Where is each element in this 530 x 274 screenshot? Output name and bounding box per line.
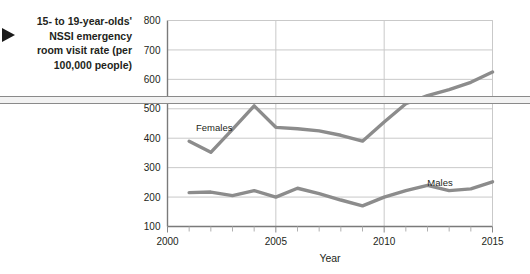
x-axis-title: Year	[319, 252, 341, 264]
series-label-females: Females	[196, 122, 233, 133]
x-tick-label: 2015	[481, 236, 504, 247]
y-tick-label: 400	[144, 133, 161, 144]
x-axis-tick-labels: 2000200520102015	[156, 236, 504, 247]
y-tick-label: 500	[144, 103, 161, 114]
y-tick-label: 300	[144, 162, 161, 173]
page-rule-line-bottom	[0, 103, 530, 104]
y-tick-label: 800	[144, 15, 161, 26]
y-tick-label: 100	[144, 221, 161, 232]
x-tick-label: 2010	[373, 236, 396, 247]
x-tick-label: 2005	[265, 236, 288, 247]
line-chart: 800700600500400300200100 200020052010201…	[0, 0, 530, 274]
x-tick-label: 2000	[156, 236, 179, 247]
y-tick-label: 600	[144, 74, 161, 85]
series-line-females	[189, 72, 492, 152]
series-label-males: Males	[427, 177, 453, 188]
page-rule-line-top	[0, 96, 530, 97]
y-axis-tick-labels: 800700600500400300200100	[144, 15, 161, 232]
y-tick-label: 200	[144, 192, 161, 203]
y-tick-label: 700	[144, 45, 161, 56]
chart-ticks	[168, 227, 493, 233]
